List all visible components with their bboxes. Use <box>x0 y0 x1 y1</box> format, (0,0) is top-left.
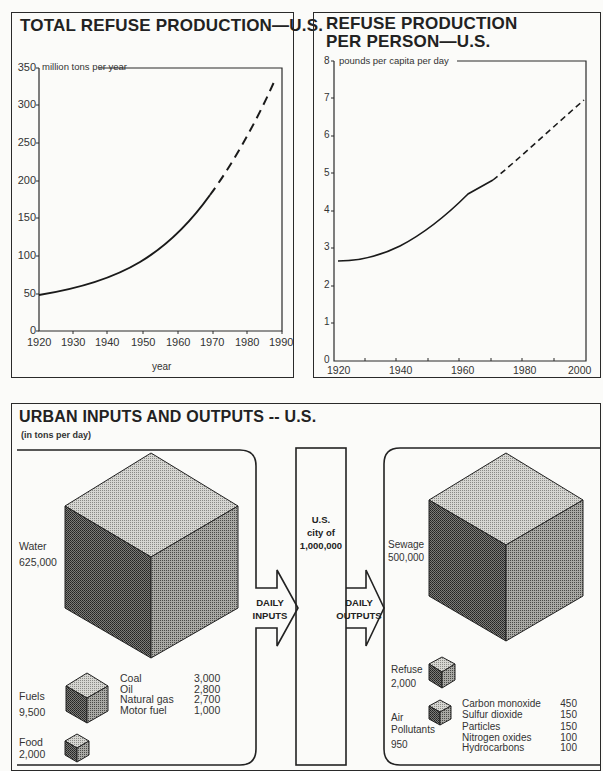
y-tick: 5 <box>324 167 330 178</box>
x-tick: 1940 <box>95 336 119 348</box>
y-tick: 3 <box>324 241 330 252</box>
y-tick: 8 <box>324 55 330 66</box>
y-tick: 6 <box>324 129 330 140</box>
chart-total-refuse-x-label: year <box>152 361 171 372</box>
air-pollutants-label: Air Pollutants 950 <box>391 712 435 751</box>
x-tick: 1950 <box>131 336 155 348</box>
city-label: U.S. city of 1,000,000 <box>294 513 348 552</box>
refuse-label: Refuse 2,000 <box>391 663 423 691</box>
chart-per-person-title-line1: REFUSE PRODUCTION <box>326 14 517 33</box>
y-tick: 7 <box>324 92 330 103</box>
x-tick: 1930 <box>61 336 85 348</box>
urban-diagram-subtitle: (in tons per day) <box>21 428 91 442</box>
y-tick: 250 <box>18 136 36 148</box>
y-tick: 50 <box>24 287 36 299</box>
x-tick: 1920 <box>27 336 51 348</box>
sewage-label: Sewage 500,000 <box>388 538 424 564</box>
x-tick: 1980 <box>235 336 259 348</box>
y-tick: 0 <box>30 324 36 336</box>
water-label: Water 625,000 <box>19 539 57 569</box>
daily-outputs-label: DAILY OUTPUTS <box>336 596 382 622</box>
y-tick: 150 <box>18 211 36 223</box>
fuels-breakdown-names: Coal Oil Natural gas Motor fuel <box>120 673 174 715</box>
x-tick: 1960 <box>451 364 474 376</box>
urban-diagram-title: URBAN INPUTS AND OUTPUTS -- U.S. <box>19 407 316 426</box>
x-tick: 1960 <box>166 336 190 348</box>
x-tick: 1970 <box>200 336 224 348</box>
y-tick: 1 <box>324 316 330 327</box>
x-tick: 2000 <box>568 364 591 376</box>
x-tick: 1980 <box>513 364 536 376</box>
chart-total-refuse-unit-label: million tons per year <box>42 61 130 72</box>
x-tick: 1990 <box>269 336 293 348</box>
x-tick: 1940 <box>389 364 412 376</box>
y-tick: 200 <box>18 174 36 186</box>
y-tick: 350 <box>18 61 36 73</box>
fuels-label: Fuels 9,500 <box>19 689 45 719</box>
food-label: Food 2,000 <box>19 736 45 760</box>
chart-per-person-frame <box>313 12 601 378</box>
fuels-breakdown-values: 3,000 2,800 2,700 1,000 <box>194 673 220 715</box>
x-tick: 1920 <box>327 364 350 376</box>
air-breakdown-names: Carbon monoxide Sulfur dioxide Particles… <box>462 699 541 754</box>
y-tick: 100 <box>18 249 36 261</box>
y-tick: 4 <box>324 204 330 215</box>
y-tick: 2 <box>324 279 330 290</box>
chart-total-refuse-title: TOTAL REFUSE PRODUCTION—U.S. <box>20 16 323 35</box>
air-breakdown-values: 450 150 150 100 100 <box>557 699 577 754</box>
daily-inputs-label: DAILY INPUTS <box>245 596 295 622</box>
y-tick: 300 <box>18 98 36 110</box>
chart-per-person-unit-label: pounds per capita per day <box>339 55 451 66</box>
chart-per-person-title-line2: PER PERSON—U.S. <box>326 32 491 51</box>
